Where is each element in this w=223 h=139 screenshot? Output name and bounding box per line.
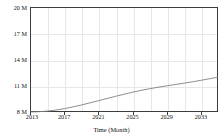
y-tick-label: 14 M	[14, 57, 27, 63]
x-tick-label: 2021	[92, 114, 104, 120]
x-tick-label: 2033	[195, 114, 207, 120]
y-tick-label: 11 M	[14, 83, 27, 89]
x-tick-label: 2025	[126, 114, 138, 120]
x-tick-label: 2029	[161, 114, 173, 120]
y-tick-label: 20 M	[14, 5, 27, 11]
y-tick-label: 17 M	[14, 31, 27, 37]
x-axis-title: Time (Month)	[0, 126, 223, 133]
x-tick-label: 2017	[58, 114, 70, 120]
series-line	[30, 7, 218, 112]
line-chart: 20 M 17 M 14 M 11 M 8 M 2013 2017 2021 2…	[0, 0, 223, 139]
x-tick-label: 2013	[26, 114, 38, 120]
